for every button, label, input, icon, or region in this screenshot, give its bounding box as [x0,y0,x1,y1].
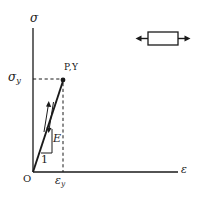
specimen-bar [148,32,178,45]
tension-specimen-icon [136,32,191,45]
epsilon-y-subscript: y [61,179,65,188]
point-label-py: P,Y [64,63,78,72]
specimen-right-arrow-head [185,36,191,42]
loading-arrow-head [46,101,51,107]
sigma-y-subscript: y [16,75,21,85]
epsilon-y-tick-label: εy [55,175,65,187]
sigma-y-base: σ [8,70,16,84]
sigma-y-tick-label: σy [8,71,21,84]
elastic-line [33,81,63,172]
origin-label: O [23,174,31,184]
strain-axis-label: ε [181,164,187,175]
diagram-canvas [0,0,202,198]
stress-axis-label: σ [30,12,38,24]
slope-run-label: 1 [41,154,48,165]
point-marker-py [61,78,66,83]
modulus-label: E [53,133,61,144]
specimen-left-arrow-head [136,36,142,42]
stress-strain-diagram: σ ε σy εy O P,Y E 1 [0,0,202,198]
